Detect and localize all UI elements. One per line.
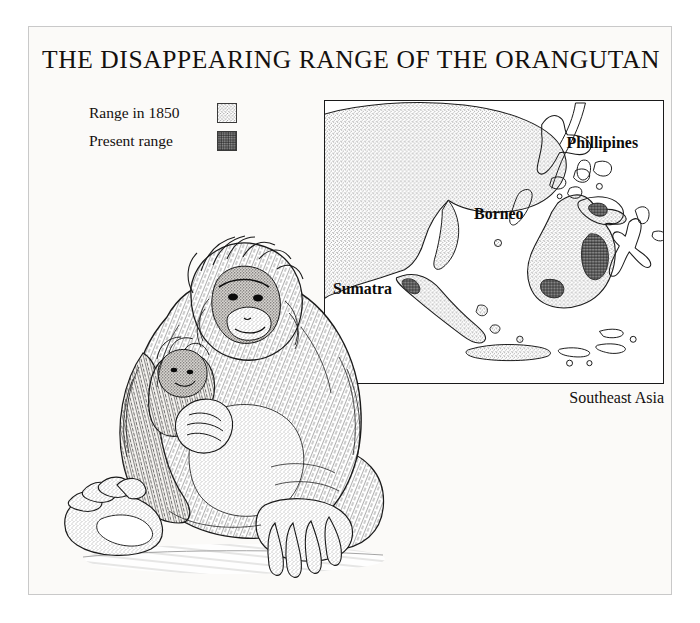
region-java-island [466, 344, 550, 360]
legend-item-present-range: Present range [89, 127, 237, 155]
infant-orangutan-head [158, 349, 207, 397]
region-small-island-a [490, 325, 500, 333]
poster-plate: THE DISAPPEARING RANGE OF THE ORANGUTAN … [28, 26, 672, 595]
orangutan-eye-left [228, 294, 238, 301]
orangutan-illustration [39, 167, 399, 587]
orangutan-cradling-hand [175, 399, 232, 453]
poster-root: THE DISAPPEARING RANGE OF THE ORANGUTAN … [0, 0, 700, 623]
stipple-light-swatch [217, 103, 237, 123]
region-small-island-b [494, 239, 501, 246]
region-small-island-c [517, 336, 523, 342]
legend-label-range-1850: Range in 1850 [89, 104, 217, 122]
region-bangka-island [476, 305, 487, 316]
map-label-phillipines: Phillipines [567, 134, 639, 152]
page-title: THE DISAPPEARING RANGE OF THE ORANGUTAN [29, 45, 673, 75]
legend-label-present-range: Present range [89, 132, 217, 150]
map-legend: Range in 1850 Present range [89, 99, 237, 155]
map-label-borneo: Borneo [474, 205, 523, 222]
orangutan-engraving [39, 167, 399, 587]
crosshatch-dark-swatch [217, 131, 237, 151]
infant-eye-left [171, 368, 177, 372]
orangutan-muzzle [227, 307, 271, 340]
region-borneo-present-range-central [581, 234, 608, 280]
infant-eye-right [187, 370, 193, 374]
orangutan-eye-right [253, 295, 263, 302]
legend-item-range-1850: Range in 1850 [89, 99, 237, 127]
